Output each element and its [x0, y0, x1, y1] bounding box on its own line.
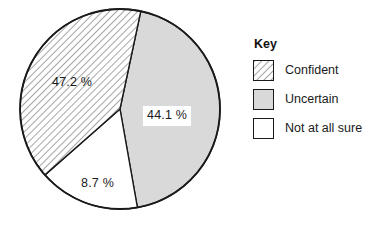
legend-label-uncertain: Uncertain — [285, 93, 339, 106]
legend-title: Key — [254, 38, 378, 51]
legend-swatch-white-icon — [253, 118, 274, 139]
legend: Key Confident Uncertain Not at all sure — [253, 38, 378, 147]
pie-label-not-at-all-sure: 8.7 % — [81, 177, 114, 190]
pie-chart-figure: 47.2 % 44.1 % 8.7 % Key Confident Uncert… — [0, 0, 378, 227]
legend-swatch-gray-icon — [253, 89, 274, 110]
legend-item-not-at-all-sure: Not at all sure — [253, 118, 378, 139]
legend-swatch-hatched-icon — [253, 60, 274, 81]
legend-label-not-at-all-sure: Not at all sure — [285, 122, 362, 135]
pie-label-uncertain: 44.1 % — [143, 106, 191, 126]
legend-item-uncertain: Uncertain — [253, 89, 378, 110]
legend-item-confident: Confident — [253, 60, 378, 81]
pie-label-confident: 47.2 % — [52, 76, 92, 89]
legend-label-confident: Confident — [285, 64, 339, 77]
